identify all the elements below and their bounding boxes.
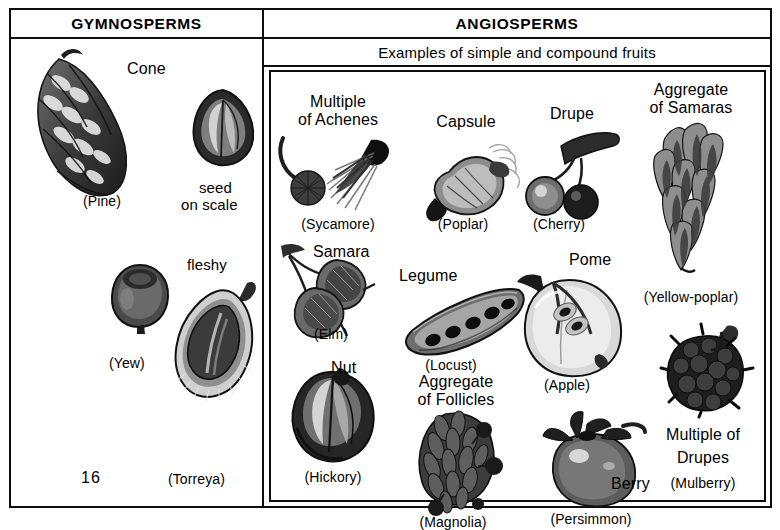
poplar-source-label: (Poplar) [438, 217, 489, 232]
drupe-label: Drupe [550, 106, 594, 123]
samara-label: Samara [313, 244, 370, 261]
yellow-poplar-source-label: (Yellow-poplar) [644, 290, 738, 305]
multiple-of-achenes-label-line2: of Achenes [298, 112, 378, 129]
angiosperms-column: ANGIOSPERMS Examples of simple and compo… [264, 10, 770, 506]
mulberry-source-label: (Mulberry) [671, 476, 736, 491]
torreya-fruit-illustration [171, 277, 263, 407]
sycamore-source-label: (Sycamore) [301, 217, 374, 232]
multiple-of-drupes-label-line2: Drupes [677, 450, 729, 467]
gymnosperms-header: GYMNOSPERMS [11, 10, 262, 39]
fruit-types-figure: GYMNOSPERMS [9, 8, 772, 508]
pome-label: Pome [569, 252, 611, 269]
sycamore-fruit-illustration [275, 132, 400, 212]
torreya-source-label: (Torreya) [168, 472, 225, 487]
locust-source-label: (Locust) [425, 358, 476, 373]
berry-label: Berry [611, 476, 650, 493]
angiosperms-header: ANGIOSPERMS [264, 10, 770, 39]
fruit-examples-panel: Multiple of Achenes [269, 70, 766, 502]
aggregate-of-follicles-label-line1: Aggregate [419, 374, 494, 391]
persimmon-source-label: (Persimmon) [550, 512, 631, 527]
multiple-of-drupes-label-line1: Multiple of [666, 427, 740, 444]
pine-source-label: (Pine) [83, 194, 121, 209]
magnolia-follicles-illustration [406, 408, 516, 518]
multiple-of-achenes-label-line1: Multiple [310, 94, 366, 111]
aggregate-of-samaras-label-line2: of Samaras [650, 100, 733, 117]
page-number: 16 [81, 469, 101, 487]
hickory-nut-illustration [287, 368, 382, 468]
hickory-source-label: (Hickory) [305, 470, 362, 485]
seed-on-scale-label-line1: seed [199, 180, 232, 196]
gymnosperms-body: Cone (Pine) seed on scale [11, 39, 262, 506]
apple-source-label: (Apple) [544, 378, 590, 393]
seed-on-scale-illustration [189, 87, 261, 172]
yew-source-label: (Yew) [109, 356, 145, 371]
angiosperms-subheader: Examples of simple and compound fruits [264, 39, 770, 67]
yellow-poplar-samaras-illustration [643, 120, 743, 275]
cherry-drupe-illustration [519, 124, 629, 219]
cherry-source-label: (Cherry) [533, 217, 585, 232]
magnolia-source-label: (Magnolia) [419, 515, 486, 530]
poplar-capsule-illustration [419, 142, 529, 224]
angiosperms-body: Multiple of Achenes [264, 67, 770, 506]
gymnosperms-column: GYMNOSPERMS [11, 10, 264, 506]
locust-legume-illustration [399, 282, 529, 367]
nut-label: Nut [331, 360, 356, 377]
seed-on-scale-label-line2: on scale [181, 197, 238, 213]
yew-fruit-illustration [107, 261, 173, 336]
persimmon-berry-illustration [535, 408, 650, 508]
capsule-label: Capsule [436, 114, 495, 131]
aggregate-of-samaras-label-line1: Aggregate [654, 82, 729, 99]
aggregate-of-follicles-label-line2: of Follicles [418, 392, 495, 409]
cone-label: Cone [127, 61, 166, 78]
elm-source-label: (Elm) [314, 327, 348, 342]
fleshy-label: fleshy [187, 257, 227, 273]
mulberry-drupes-illustration [661, 322, 757, 417]
apple-pome-illustration [515, 268, 635, 383]
